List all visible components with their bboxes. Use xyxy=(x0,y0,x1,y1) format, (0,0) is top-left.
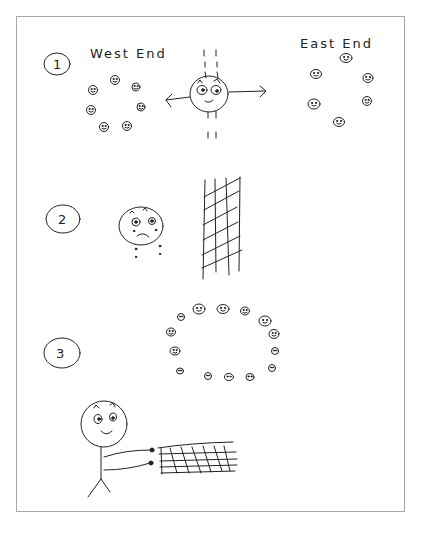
step-3-marker: 3 xyxy=(44,338,80,368)
vertical-net xyxy=(202,177,242,279)
step-2-marker: 2 xyxy=(46,205,80,233)
central-figure xyxy=(166,50,266,138)
east-end-crowd xyxy=(308,54,373,127)
stick-figure xyxy=(81,401,154,497)
west-end-crowd xyxy=(87,76,146,132)
svg-text:1: 1 xyxy=(53,57,61,72)
sad-face xyxy=(119,207,163,258)
circle-of-faces xyxy=(167,304,280,381)
step-1-marker: 1 xyxy=(44,53,70,75)
horizontal-net xyxy=(158,442,237,474)
drawing-canvas: 1 2 xyxy=(0,0,424,538)
svg-text:2: 2 xyxy=(58,212,66,227)
svg-text:3: 3 xyxy=(56,346,64,361)
